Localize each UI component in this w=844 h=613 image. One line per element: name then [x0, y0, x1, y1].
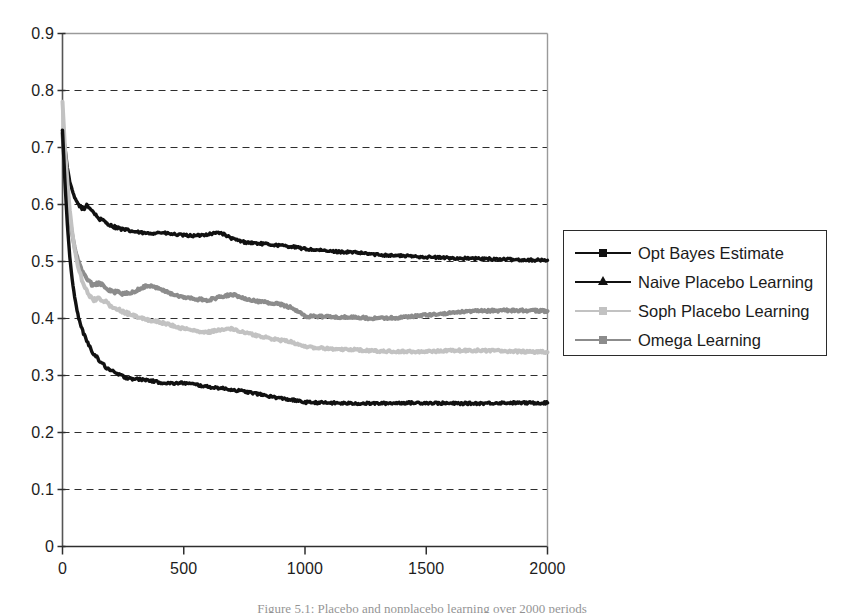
y-axis-tick-label: 0.7 — [8, 140, 54, 156]
y-axis-tick-label: 0.8 — [8, 83, 54, 99]
legend-square-marker-icon — [599, 249, 607, 257]
legend-triangle-marker-icon — [598, 276, 608, 285]
legend-square-marker-icon — [599, 307, 607, 315]
y-axis-tick-label: 0 — [8, 539, 54, 555]
series-line — [63, 130, 548, 404]
x-axis-tick-label: 1500 — [386, 561, 466, 577]
series-line — [63, 133, 548, 319]
legend-item[interactable]: Naive Placebo Learning — [564, 267, 826, 296]
gridlines-group — [63, 34, 548, 490]
y-axis-tick-label: 0.9 — [8, 26, 54, 42]
y-axis-tick-label: 0.3 — [8, 368, 54, 384]
x-axis-tick-label: 500 — [144, 561, 224, 577]
legend-item-label: Omega Learning — [638, 331, 761, 349]
y-axis-tick-label: 0.4 — [8, 311, 54, 327]
legend-square-marker-icon — [599, 336, 607, 344]
legend-marker-icon — [575, 276, 631, 288]
legend-item-label: Soph Placebo Learning — [638, 302, 810, 320]
figure-caption: Figure 5.1: Placebo and nonplacebo learn… — [0, 601, 844, 613]
legend-marker-icon — [575, 305, 631, 317]
legend-marker-icon — [575, 247, 631, 259]
y-axis-tick-label: 0.5 — [8, 254, 54, 270]
legend-item[interactable]: Opt Bayes Estimate — [564, 238, 826, 267]
legend-item[interactable]: Soph Placebo Learning — [564, 296, 826, 325]
chart-legend: Opt Bayes Estimate Naive Placebo Learnin… — [563, 230, 827, 356]
x-axis-tick-label: 0 — [23, 561, 103, 577]
series-line — [63, 130, 548, 261]
y-axis-tick-label: 0.6 — [8, 197, 54, 213]
x-axis-tick-label: 1000 — [265, 561, 345, 577]
legend-item-label: Naive Placebo Learning — [638, 273, 813, 291]
y-axis-tick-label: 0.2 — [8, 425, 54, 441]
figure-container: 00.10.20.30.40.50.60.70.80.9 05001000150… — [0, 0, 844, 613]
y-axis-tick-label: 0.1 — [8, 482, 54, 498]
legend-item-label: Opt Bayes Estimate — [638, 244, 784, 262]
legend-marker-icon — [575, 334, 631, 346]
x-axis-tick-label: 2000 — [508, 561, 588, 577]
legend-item[interactable]: Omega Learning — [564, 325, 826, 354]
